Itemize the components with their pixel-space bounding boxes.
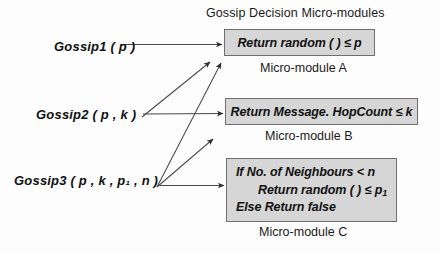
module-c-line-1: If No. of Neighbours < n [236, 164, 375, 182]
module-b-line-1: Return Message. HopCount ≤ k [231, 104, 413, 120]
module-c-line-2: Return random ( ) ≤ p1 [236, 182, 387, 200]
module-caption-a: Micro-module A [260, 61, 347, 75]
arrow-gossip2-to-module-b [143, 114, 223, 115]
call-label-gossip3: Gossip3 ( p , k , p₁ , n ) [14, 173, 158, 188]
call-label-gossip1: Gossip1 ( p ) [54, 39, 135, 54]
module-box-a: Return random ( ) ≤ p [224, 29, 375, 56]
module-a-line-1: Return random ( ) ≤ p [237, 35, 361, 51]
module-caption-c: Micro-module C [259, 225, 347, 239]
arrow-gossip3-to-module-b [157, 139, 213, 187]
diagram-title: Gossip Decision Micro-modules [206, 6, 385, 20]
diagram-canvas: Gossip Decision Micro-modules [0, 0, 439, 253]
call-label-gossip2: Gossip2 ( p , k ) [36, 107, 136, 122]
module-caption-b: Micro-module B [265, 129, 353, 143]
module-box-b: Return Message. HopCount ≤ k [225, 98, 418, 125]
arrow-gossip3-to-module-a [157, 63, 221, 187]
module-c-line-2-text: Return random ( ) ≤ p [258, 183, 382, 197]
module-c-line-2-subscript: 1 [382, 188, 387, 198]
module-c-line-3: Else Return false [236, 199, 336, 217]
arrow-gossip2-to-module-a [142, 62, 210, 117]
module-box-c: If No. of Neighbours < n Return random (… [226, 158, 397, 222]
